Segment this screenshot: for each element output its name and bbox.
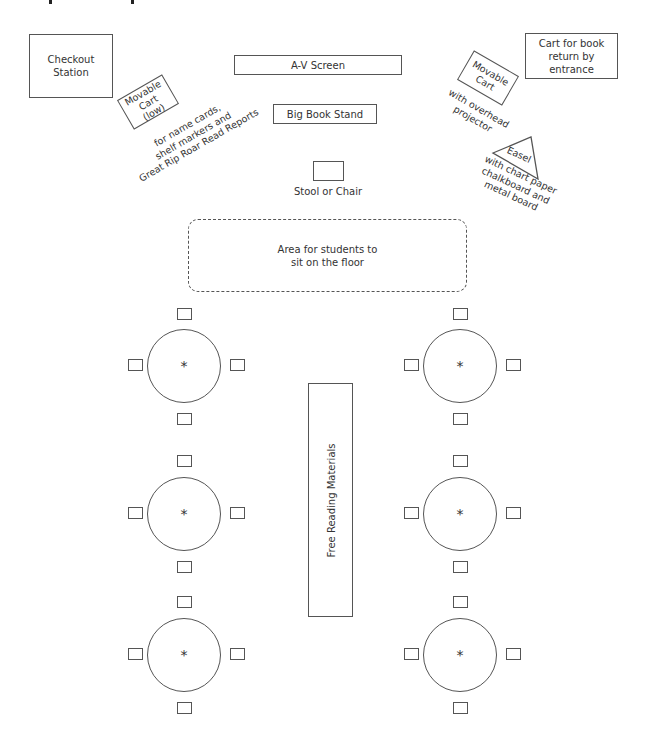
chair [453, 455, 468, 467]
round-table: * [147, 329, 221, 403]
chair [128, 648, 143, 660]
chair [128, 359, 143, 371]
chair [404, 648, 419, 660]
table-asterisk: * [181, 647, 188, 663]
chair [177, 413, 192, 425]
chair [177, 702, 192, 714]
chair [453, 413, 468, 425]
table-asterisk: * [457, 506, 464, 522]
chair [404, 359, 419, 371]
table-asterisk: * [457, 647, 464, 663]
chair [177, 308, 192, 320]
chair [230, 359, 245, 371]
chair [453, 702, 468, 714]
table-asterisk: * [181, 506, 188, 522]
table-asterisk: * [181, 358, 188, 374]
round-table: * [147, 618, 221, 692]
chair [128, 507, 143, 519]
free-reading-shelf: Free Reading Materials [308, 383, 353, 617]
chair [506, 648, 521, 660]
table-asterisk: * [457, 358, 464, 374]
chair [177, 455, 192, 467]
floor-seating-area-label: Area for students to sit on the floor [273, 243, 383, 269]
easel-triangle-icon [0, 0, 647, 742]
free-reading-label: Free Reading Materials [324, 443, 337, 557]
chair [453, 308, 468, 320]
chair [506, 359, 521, 371]
chair [506, 507, 521, 519]
chair [453, 596, 468, 608]
round-table: * [423, 477, 497, 551]
chair [177, 596, 192, 608]
round-table: * [423, 618, 497, 692]
chair [177, 561, 192, 573]
round-table: * [423, 329, 497, 403]
round-table: * [147, 477, 221, 551]
chair [404, 507, 419, 519]
chair [453, 561, 468, 573]
chair [230, 507, 245, 519]
chair [230, 648, 245, 660]
floor-seating-area: Area for students to sit on the floor [188, 219, 467, 292]
